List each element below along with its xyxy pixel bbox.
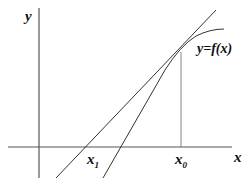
x1-label: x1 <box>87 152 99 170</box>
x0-label-sub: 0 <box>183 160 188 170</box>
x1-label-sub: 1 <box>95 160 100 170</box>
x0-label: x0 <box>175 152 187 170</box>
x0-label-main: x <box>175 151 183 167</box>
x-axis-label: x <box>234 150 242 165</box>
curve-label: y=f(x) <box>197 42 232 56</box>
newton-method-diagram <box>0 0 248 189</box>
tangent-line <box>56 10 216 178</box>
y-axis-label: y <box>25 9 32 24</box>
x1-label-main: x <box>87 151 95 167</box>
